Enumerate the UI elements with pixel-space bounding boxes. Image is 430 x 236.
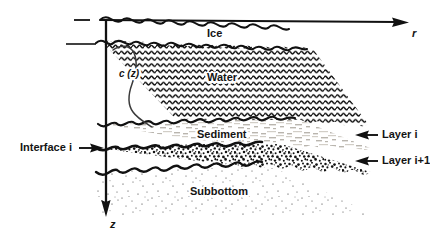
layer-i-label: Layer i bbox=[382, 129, 417, 140]
medium-label-sediment: Sediment bbox=[197, 129, 247, 140]
sound-speed-profile-label: c (z) bbox=[119, 69, 139, 79]
layered-waveguide-diagram: Ice Water Sediment Subbottom c (z) Inter… bbox=[0, 0, 430, 236]
layer-i-plus-1-label: Layer i+1 bbox=[382, 155, 430, 166]
r-axis-arrowhead bbox=[392, 18, 409, 27]
water-fill bbox=[100, 38, 372, 130]
z-axis-label: z bbox=[110, 219, 116, 230]
medium-label-water: Water bbox=[207, 72, 237, 83]
r-axis-label: r bbox=[412, 28, 416, 39]
interface-i-label: Interface i bbox=[20, 142, 72, 153]
layer-i-arrowhead bbox=[355, 130, 369, 139]
layer-i-plus-1-arrowhead bbox=[355, 156, 369, 165]
medium-label-subbottom: Subbottom bbox=[190, 186, 248, 197]
medium-label-ice: Ice bbox=[207, 28, 222, 39]
